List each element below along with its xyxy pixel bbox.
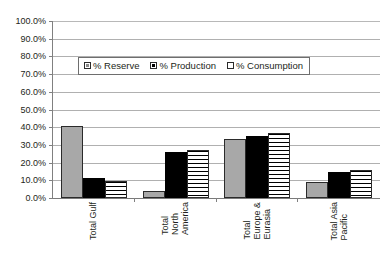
legend-label-production: % Production [159,60,216,71]
bar-group [298,21,380,198]
x-axis-label-cell: TotalEurope &Eurasia [216,202,298,263]
x-axis-label-cell: TotalNorthAmerica [134,202,216,263]
x-axis-tick-label: Total Gulf [88,202,98,240]
x-axis-tick-label-line: North [170,202,180,235]
bar-reserve [143,191,165,198]
legend-swatch-reserve-icon [84,62,91,69]
y-axis-tick-label: 100.0% [0,17,46,26]
y-axis-tick-label: 20.0% [0,159,46,168]
bar-groups [53,21,380,198]
bar-reserve [224,139,246,198]
y-axis-tick-label: 80.0% [0,52,46,61]
bar-consumption [187,150,209,198]
y-axis-tick-label: 60.0% [0,88,46,97]
legend-item-reserve: % Reserve [84,60,139,71]
x-axis-tick-label-line: Total Gulf [88,202,98,240]
x-axis-tick-label-line: Total [160,202,170,235]
legend-item-production: % Production [150,60,216,71]
bar-group [53,21,135,198]
bar-production [328,172,350,198]
bar-consumption [268,133,290,198]
bar-group [217,21,299,198]
bar-reserve [306,182,328,198]
bar-production [83,178,105,198]
bar-consumption [350,170,372,198]
bar-production [165,152,187,198]
x-axis-tick-label: TotalNorthAmerica [160,202,190,235]
plot-area [52,21,380,198]
legend-swatch-consumption-icon [227,62,234,69]
y-axis-tick-label: 70.0% [0,70,46,79]
y-axis-tick-label: 0.0% [0,194,46,203]
x-axis-tick-label: Total AsiaPacific [329,202,349,241]
x-axis-tick-label-line: Total [242,202,252,240]
bar-group [135,21,217,198]
x-axis-tick-label-line: Total Asia [329,202,339,241]
legend-label-consumption: % Consumption [236,60,303,71]
y-axis-tick-label: 10.0% [0,176,46,185]
legend-item-consumption: % Consumption [227,60,303,71]
gridline [53,198,380,199]
bar-chart: 100.0%90.0%80.0%70.0%60.0%50.0%40.0%30.0… [0,0,390,263]
y-axis-tick-label: 30.0% [0,141,46,150]
x-axis-label-cell: Total Gulf [52,202,134,263]
y-axis-tick-label: 40.0% [0,123,46,132]
bar-reserve [61,126,83,198]
legend-swatch-production-icon [150,62,157,69]
bar-production [246,136,268,198]
chart-legend: % Reserve % Production % Consumption [78,57,310,75]
y-axis-tick-mark [49,198,53,199]
x-axis-tick-label-line: Europe & [252,202,262,240]
x-axis-tick-label-line: Pacific [339,202,349,241]
x-axis-tick-label-line: Eurasia [262,202,272,240]
bar-consumption [105,181,127,198]
y-axis-tick-label: 90.0% [0,35,46,44]
y-axis-tick-label: 50.0% [0,106,46,115]
chart-title [0,0,390,10]
x-axis-tick-label: TotalEurope &Eurasia [242,202,272,240]
x-axis-label-cell: Total AsiaPacific [298,202,380,263]
x-axis-tick-label-line: America [180,202,190,235]
x-axis: Total GulfTotalNorthAmericaTotalEurope &… [52,202,380,263]
legend-label-reserve: % Reserve [93,60,139,71]
